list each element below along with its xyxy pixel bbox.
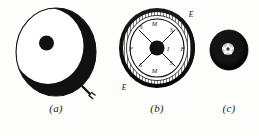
sphere-central-dot — [39, 36, 54, 51]
small-disc-center-dot — [226, 47, 229, 50]
label-e-lower-left: E — [121, 83, 127, 92]
panel-a: (a) — [8, 2, 104, 102]
caption-b: (b) — [137, 102, 177, 114]
pointer-arrow — [76, 80, 95, 99]
caption-a: (a) — [36, 102, 76, 114]
panel-b: M M S S S S F F I E E (b) — [112, 2, 202, 102]
panel-c-drawing — [201, 2, 257, 102]
panel-a-drawing — [8, 2, 104, 102]
panel-c: (c) — [201, 2, 257, 102]
caption-c: (c) — [209, 102, 249, 114]
label-e-upper-right: E — [188, 10, 194, 19]
panel-b-drawing: M M S S S S F F I E E — [112, 2, 202, 102]
label-m-bottom: M — [151, 67, 158, 74]
dial-hub — [149, 40, 164, 55]
figure-plate: (a) — [0, 0, 259, 136]
label-m-top: M — [151, 20, 158, 27]
